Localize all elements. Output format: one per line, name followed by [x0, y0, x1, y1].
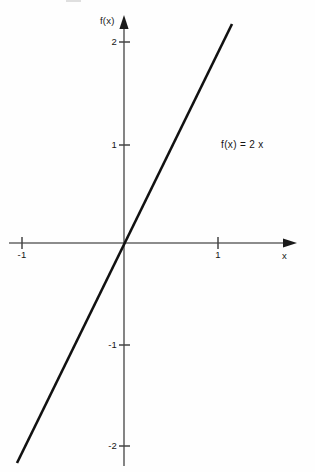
x-tick-label-1: 1 [209, 249, 227, 260]
x-tick-label-minus-1: -1 [12, 249, 32, 260]
x-axis-label: x [282, 250, 287, 261]
y-tick-label-minus-1: -1 [99, 339, 117, 350]
x-axis-arrowhead [283, 238, 297, 247]
y-axis-arrowhead [119, 15, 128, 29]
function-plot-figure: 2 1 -1 -2 -1 1 f(x) x f(x) = 2 x [0, 0, 315, 472]
equation-annotation: f(x) = 2 x [221, 139, 264, 150]
y-tick-label-2: 2 [103, 36, 117, 47]
y-axis-label: f(x) [100, 15, 115, 26]
y-tick-label-minus-2: -2 [99, 440, 117, 451]
plot-canvas [0, 0, 315, 472]
y-tick-label-1: 1 [103, 139, 117, 150]
